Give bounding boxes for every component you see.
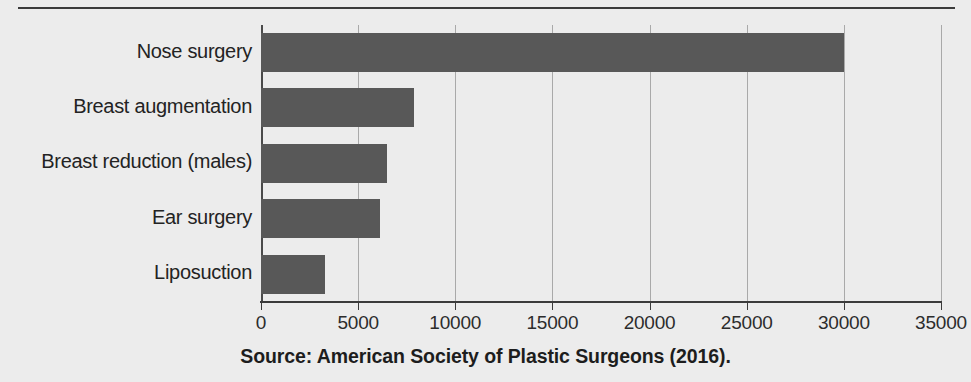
category-label: Ear surgery: [0, 206, 252, 229]
gridline-35000: [941, 25, 942, 302]
x-axis-line: [260, 301, 942, 303]
source-caption: Source: American Society of Plastic Surg…: [0, 345, 971, 368]
x-tick-label: 0: [256, 312, 266, 334]
x-tick-30000: [844, 303, 845, 310]
bar-chart-figure: Nose surgeryBreast augmentationBreast re…: [0, 0, 971, 382]
x-tick-10000: [455, 303, 456, 310]
x-tick-35000: [941, 303, 942, 310]
x-tick-0: [261, 303, 262, 310]
x-tick-label: 10000: [429, 312, 481, 334]
x-tick-label: 5000: [337, 312, 378, 334]
bar: [261, 255, 325, 294]
category-label: Nose surgery: [0, 40, 252, 63]
x-tick-label: 20000: [624, 312, 676, 334]
bar: [261, 33, 844, 72]
x-tick-label: 25000: [721, 312, 773, 334]
x-tick-25000: [747, 303, 748, 310]
bar: [261, 144, 387, 183]
x-tick-label: 30000: [818, 312, 870, 334]
x-tick-label: 15000: [527, 312, 579, 334]
plot-area: [261, 25, 941, 302]
bar-row: [261, 255, 941, 294]
category-label: Breast augmentation: [0, 95, 252, 118]
x-tick-5000: [358, 303, 359, 310]
bar: [261, 88, 414, 127]
bar-row: [261, 33, 941, 72]
bar: [261, 199, 380, 238]
top-divider-rule: [18, 7, 955, 9]
x-tick-label: 35000: [915, 312, 967, 334]
category-label: Breast reduction (males): [0, 150, 252, 173]
category-label: Liposuction: [0, 261, 252, 284]
x-tick-15000: [552, 303, 553, 310]
bar-row: [261, 199, 941, 238]
x-tick-20000: [650, 303, 651, 310]
bar-row: [261, 144, 941, 183]
bar-row: [261, 88, 941, 127]
